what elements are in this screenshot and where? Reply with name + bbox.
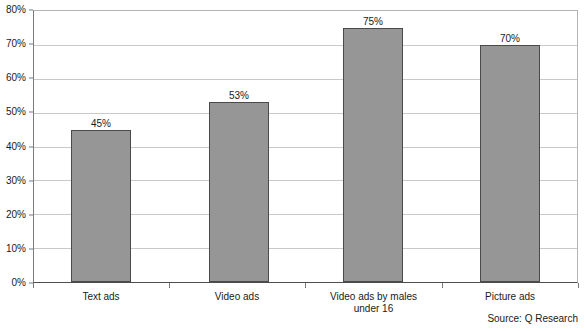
bar-video-ads-males-under-16[interactable]: 75% bbox=[343, 28, 403, 282]
plot-area: 45% 53% 75% 70% bbox=[33, 10, 578, 283]
y-tick-label-30: 30% bbox=[6, 176, 26, 186]
bar-value-label-video-ads-males-under-16: 75% bbox=[363, 16, 383, 27]
x-category-label-video-ads-line1: Video ads bbox=[169, 291, 305, 303]
bar-value-label-picture-ads: 70% bbox=[500, 33, 520, 44]
x-category-label-picture-ads-line1: Picture ads bbox=[442, 291, 578, 303]
x-category-label-text-ads: Text ads bbox=[33, 291, 169, 303]
y-tick-label-20: 20% bbox=[6, 210, 26, 220]
bar-video-ads[interactable]: 53% bbox=[209, 102, 269, 282]
x-category-label-picture-ads: Picture ads bbox=[442, 291, 578, 303]
x-category-label-video-ads-males-under-16: Video ads by males under 16 bbox=[305, 291, 442, 315]
y-tick-label-40: 40% bbox=[6, 142, 26, 152]
y-tick-label-0: 0% bbox=[12, 278, 26, 288]
y-tick-label-10: 10% bbox=[6, 244, 26, 254]
bar-value-label-text-ads: 45% bbox=[91, 118, 111, 129]
x-category-label-video-ads: Video ads bbox=[169, 291, 305, 303]
x-tickmark-4 bbox=[578, 283, 579, 288]
bar-chart: 0% 10% 20% 30% 40% 50% 60% 70% 80% 45% 5… bbox=[0, 0, 585, 331]
x-tickmark-3 bbox=[442, 283, 443, 288]
x-tickmark-2 bbox=[305, 283, 306, 288]
y-tick-label-50: 50% bbox=[6, 107, 26, 117]
y-tick-label-80: 80% bbox=[6, 5, 26, 15]
x-category-label-video-ads-males-under-16-line1: Video ads by males bbox=[305, 291, 442, 303]
y-axis: 0% 10% 20% 30% 40% 50% 60% 70% 80% bbox=[0, 10, 33, 283]
bar-text-ads[interactable]: 45% bbox=[71, 130, 131, 282]
bar-value-label-video-ads: 53% bbox=[229, 90, 249, 101]
y-tick-label-60: 60% bbox=[6, 73, 26, 83]
source-note: Source: Q Research bbox=[487, 313, 578, 325]
x-category-label-video-ads-males-under-16-line2: under 16 bbox=[305, 303, 442, 315]
x-tickmark-1 bbox=[169, 283, 170, 288]
y-tick-label-70: 70% bbox=[6, 39, 26, 49]
bar-picture-ads[interactable]: 70% bbox=[480, 45, 540, 282]
x-category-label-text-ads-line1: Text ads bbox=[33, 291, 169, 303]
x-tickmark-0 bbox=[33, 283, 34, 288]
